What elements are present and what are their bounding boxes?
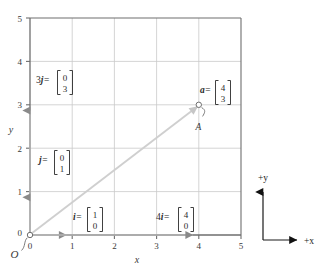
y-tick-label-0: 0 [18, 228, 23, 238]
y-tick-label-5: 5 [18, 14, 23, 24]
vector-4i-equals: = [164, 212, 169, 222]
vector-a-matrix-top: 4 [221, 83, 226, 93]
x-tick-label-0: 0 [28, 241, 33, 251]
point-a-marker [196, 102, 201, 107]
vector-4i-name-group: 4i= [156, 212, 169, 222]
x-tick-label-4: 4 [197, 241, 202, 251]
vector-j-matrix-top: 0 [60, 153, 65, 163]
compass-x-label: +x [304, 236, 314, 246]
vector-3j-equals: = [44, 75, 49, 85]
x-tick-label-3: 3 [154, 241, 159, 251]
vector-4i-matrix-bottom: 0 [184, 221, 189, 231]
vector-a-symbol: a [200, 85, 205, 95]
y-axis-label: y [8, 124, 14, 135]
x-axis-label: x [134, 254, 140, 265]
point-a-label: A [195, 122, 202, 132]
vector-i-matrix-bottom: 0 [93, 221, 98, 231]
vector-3j-matrix-top: 0 [63, 73, 68, 83]
vector-a-name-group: a= [200, 85, 211, 95]
vector-3j-name-group: 3j= [36, 75, 49, 85]
vector-4i-matrix-top: 4 [184, 210, 189, 220]
vector-3j-matrix-bottom: 3 [63, 84, 68, 94]
figure-background [0, 0, 331, 271]
vector-j-matrix-bottom: 1 [60, 164, 65, 174]
x-tick-label-1: 1 [70, 241, 75, 251]
vector-i-name-group: i= [73, 212, 82, 222]
vector-a-matrix-bottom: 3 [221, 94, 226, 104]
y-tick-label-4: 4 [18, 57, 23, 67]
y-tick-label-3: 3 [18, 100, 23, 110]
vector-j-equals: = [42, 155, 47, 165]
vector-diagram-figure: A O 5 4 3 2 1 0 0 1 2 3 4 5 y x 3j= 0 3 … [0, 0, 331, 271]
x-tick-label-5: 5 [239, 241, 244, 251]
y-tick-label-2: 2 [18, 144, 23, 154]
compass-y-label: +y [258, 173, 268, 183]
vector-i-matrix-top: 1 [93, 210, 98, 220]
origin-label: O [11, 248, 19, 260]
origin-marker [27, 232, 32, 237]
vector-j-name-group: j= [37, 155, 48, 165]
x-tick-label-2: 2 [112, 241, 117, 251]
vector-i-equals: = [76, 212, 81, 222]
y-tick-label-1: 1 [18, 187, 23, 197]
vector-a-equals: = [205, 85, 210, 95]
